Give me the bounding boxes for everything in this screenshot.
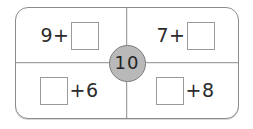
equation-trailing-text: +8 xyxy=(185,81,214,100)
equation-leading-text: 9+ xyxy=(40,26,69,45)
equation-bottom-left: +6 xyxy=(40,77,98,105)
equation-leading-text: 7+ xyxy=(156,26,185,45)
answer-box-top-right[interactable] xyxy=(187,22,215,50)
total-value: 10 xyxy=(115,54,140,72)
fact-family-frame: 9+ 7+ +6 +8 10 xyxy=(15,7,239,119)
equation-top-left: 9+ xyxy=(40,22,98,50)
answer-box-bottom-left[interactable] xyxy=(40,77,68,105)
fact-family-widget: 9+ 7+ +6 +8 10 xyxy=(0,0,253,129)
total-circle: 10 xyxy=(109,45,146,82)
answer-box-top-left[interactable] xyxy=(71,22,99,50)
equation-top-right: 7+ xyxy=(156,22,214,50)
equation-trailing-text: +6 xyxy=(69,81,98,100)
equation-bottom-right: +8 xyxy=(156,77,214,105)
answer-box-bottom-right[interactable] xyxy=(156,77,184,105)
